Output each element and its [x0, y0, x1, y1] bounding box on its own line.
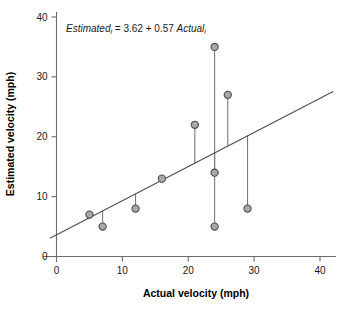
data-point-marker [132, 205, 139, 212]
x-axis-title: Actual velocity (mph) [143, 287, 249, 299]
data-point-marker [211, 169, 218, 176]
data-point-marker [86, 211, 93, 218]
data-point-marker [211, 43, 218, 50]
data-points [86, 43, 251, 230]
y-axis-title: Estimated velocity (mph) [4, 72, 16, 196]
y-axis-ticks: 010203040 [36, 12, 56, 263]
data-point-marker [99, 223, 106, 230]
y-tick-label: 30 [36, 71, 48, 82]
x-tick-label: 40 [314, 265, 326, 276]
axes [43, 12, 336, 262]
data-point-marker [191, 121, 198, 128]
data-point-marker [224, 91, 231, 98]
x-tick-label: 10 [117, 265, 129, 276]
y-tick-label: 0 [42, 251, 48, 262]
y-tick-label: 40 [36, 12, 48, 23]
x-tick-label: 20 [183, 265, 195, 276]
x-tick-label: 30 [249, 265, 261, 276]
y-tick-label: 10 [36, 191, 48, 202]
regression-equation-annotation: Estimatedi = 3.62 + 0.57 Actuali [66, 23, 206, 35]
data-point-marker [211, 223, 218, 230]
x-tick-label: 0 [54, 265, 60, 276]
data-point-marker [244, 205, 251, 212]
residual-segments [89, 47, 247, 227]
x-axis-ticks: 010203040 [54, 257, 326, 276]
scatter-plot-figure: 010203040 010203040 Estimatedi = 3.62 + … [0, 0, 343, 311]
plot-canvas: 010203040 010203040 Estimatedi = 3.62 + … [0, 0, 343, 311]
y-tick-label: 20 [36, 131, 48, 142]
data-point-marker [158, 175, 165, 182]
